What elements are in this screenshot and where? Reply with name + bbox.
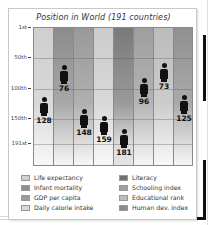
person-icon — [138, 78, 150, 97]
background-side-bar — [203, 160, 206, 220]
person-icon — [178, 95, 190, 114]
rank-label: 125 — [172, 114, 193, 123]
legend-swatch — [119, 205, 128, 211]
legend-item: GDP per capita — [21, 194, 81, 203]
legend-swatch — [21, 175, 30, 181]
legend-item: Educational rank — [119, 194, 184, 203]
gridline — [34, 58, 192, 59]
y-tick: 50th — [9, 54, 31, 60]
gridline — [34, 119, 192, 120]
legend-swatch — [21, 195, 30, 201]
legend-item: Life expectancy — [21, 174, 83, 183]
legend-label: Life expectancy — [34, 174, 83, 181]
chart-title: Position in World (191 countries) — [9, 13, 198, 22]
legend-label: Infant mortality — [34, 184, 82, 191]
y-tick-label: 150th — [11, 115, 27, 121]
gridline — [34, 144, 192, 145]
legend-swatch — [21, 185, 30, 191]
legend-label: GDP per capita — [34, 194, 81, 201]
y-tick: 100th — [9, 85, 31, 91]
person-icon — [158, 63, 170, 82]
background-side-bar — [197, 217, 206, 220]
background-rule — [207, 0, 208, 225]
legend-item: Literacy — [119, 174, 157, 183]
legend-swatch — [119, 175, 128, 181]
person-icon — [78, 109, 90, 128]
legend-swatch — [119, 185, 128, 191]
legend-label: Daily calorie intake — [34, 204, 93, 211]
rank-label: 76 — [52, 84, 76, 93]
legend-swatch — [119, 195, 128, 201]
legend-label: Educational rank — [132, 194, 184, 201]
y-tick-label: 191st — [11, 140, 27, 146]
rank-label: 159 — [92, 135, 116, 144]
y-tick-label: 1st — [18, 24, 27, 30]
person-icon — [38, 97, 50, 116]
person-icon — [98, 116, 110, 135]
person-icon — [58, 65, 70, 84]
legend-label: Literacy — [132, 174, 157, 181]
legend-item: Human dev. index — [119, 204, 188, 213]
rank-label: 96 — [132, 97, 156, 106]
rank-label: 181 — [112, 148, 136, 157]
background-side-bar — [203, 35, 206, 101]
rank-label: 73 — [152, 82, 176, 91]
legend-label: Human dev. index — [132, 204, 188, 211]
y-tick: 191st — [9, 140, 31, 146]
chart-card: Position in World (191 countries) 1st 50… — [8, 8, 197, 220]
legend-swatch — [21, 205, 30, 211]
plot-area: 128 76 148 159 181 96 73 125 — [33, 27, 193, 166]
legend-item: Daily calorie intake — [21, 204, 93, 213]
legend-item: Schooling index — [119, 184, 181, 193]
rank-label: 128 — [33, 116, 56, 125]
y-tick-label: 100th — [11, 85, 27, 91]
y-tick: 1st — [9, 24, 31, 30]
y-tick: 150th — [9, 115, 31, 121]
person-icon — [118, 129, 130, 148]
y-tick-label: 50th — [14, 54, 27, 60]
legend-label: Schooling index — [132, 184, 181, 191]
legend-item: Infant mortality — [21, 184, 82, 193]
